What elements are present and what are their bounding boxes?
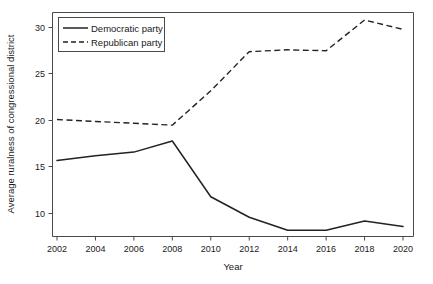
x-tick-label-2010: 2010 (201, 244, 221, 254)
x-tick-label-2014: 2014 (278, 244, 298, 254)
y-tick-label-15: 15 (35, 162, 45, 172)
chart-figure: 30 25 20 15 10 2002200420062008201020122… (0, 0, 433, 284)
x-tick-label-2004: 2004 (85, 244, 105, 254)
y-axis-tick-labels: 30 25 20 15 10 (35, 23, 45, 219)
x-tick-label-2002: 2002 (47, 244, 67, 254)
legend-label-democratic-party: Democratic party (91, 23, 163, 34)
y-tick-label-30: 30 (35, 23, 45, 33)
x-tick-label-2006: 2006 (124, 244, 144, 254)
x-axis-tick-labels: 2002200420062008201020122014201620182020 (47, 244, 413, 254)
chart-legend[interactable]: Democratic party Republican party (59, 18, 165, 52)
line-chart: 30 25 20 15 10 2002200420062008201020122… (0, 0, 433, 284)
x-tick-label-2012: 2012 (239, 244, 259, 254)
y-tick-label-20: 20 (35, 116, 45, 126)
y-tick-label-25: 25 (35, 69, 45, 79)
y-tick-label-10: 10 (35, 209, 45, 219)
series-line-democratic-party (57, 141, 403, 230)
x-axis-ticks (57, 237, 403, 241)
x-tick-label-2018: 2018 (355, 244, 375, 254)
x-tick-label-2020: 2020 (393, 244, 413, 254)
y-axis-ticks (49, 28, 53, 214)
y-axis-title: Average ruralness of congressional distr… (5, 34, 16, 213)
x-tick-label-2008: 2008 (162, 244, 182, 254)
x-tick-label-2016: 2016 (316, 244, 336, 254)
x-axis-title: Year (223, 261, 242, 272)
legend-label-republican-party: Republican party (91, 37, 163, 48)
